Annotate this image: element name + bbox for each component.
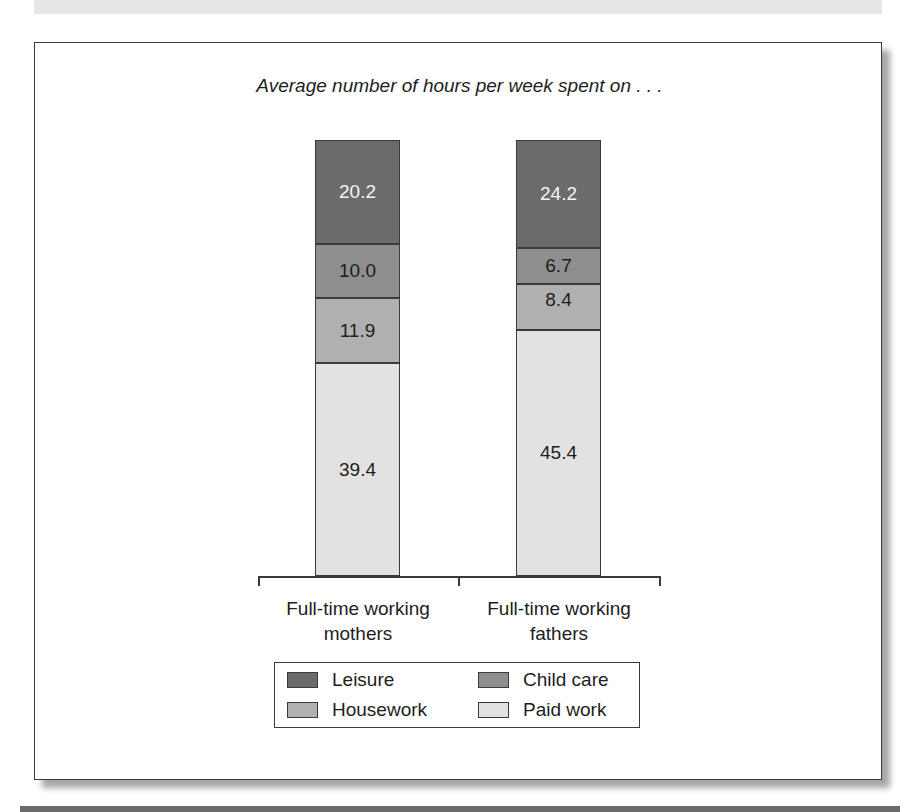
x-label-line: mothers — [258, 621, 458, 646]
segment-child-care: 10.0 — [315, 244, 400, 298]
x-label-line: fathers — [459, 621, 659, 646]
x-label-line: Full-time working — [258, 596, 458, 621]
legend-label: Child care — [523, 669, 609, 691]
segment-paid-work: 39.4 — [315, 363, 400, 576]
value-label: 6.7 — [545, 255, 571, 277]
x-axis-tick — [659, 576, 661, 586]
x-label-mothers: Full-time working mothers — [258, 596, 458, 646]
segment-housework: 11.9 — [315, 298, 400, 363]
legend-swatch-leisure — [287, 672, 318, 688]
legend-item-paid-work: Paid work — [478, 699, 606, 721]
bottom-rule — [20, 806, 900, 812]
legend-label: Housework — [332, 699, 427, 721]
value-label: 20.2 — [339, 181, 376, 203]
legend-item-leisure: Leisure — [287, 669, 394, 691]
value-label: 10.0 — [339, 260, 376, 282]
legend: Leisure Child care Housework Paid work — [274, 662, 640, 728]
legend-swatch-paid-work — [478, 702, 509, 718]
legend-swatch-housework — [287, 702, 318, 718]
x-label-line: Full-time working — [459, 596, 659, 621]
legend-swatch-child-care — [478, 672, 509, 688]
bar-fathers: 24.2 6.7 8.4 45.4 — [516, 140, 601, 576]
segment-leisure: 20.2 — [315, 140, 400, 244]
segment-leisure: 24.2 — [516, 140, 601, 248]
value-label: 24.2 — [540, 183, 577, 205]
value-label: 39.4 — [339, 459, 376, 481]
value-label: 45.4 — [540, 442, 577, 464]
x-label-fathers: Full-time working fathers — [459, 596, 659, 646]
legend-label: Leisure — [332, 669, 394, 691]
bar-mothers: 20.2 10.0 11.9 39.4 — [315, 140, 400, 576]
x-axis-tick — [258, 576, 260, 586]
legend-item-child-care: Child care — [478, 669, 609, 691]
value-label: 8.4 — [545, 289, 571, 311]
legend-item-housework: Housework — [287, 699, 427, 721]
x-axis-tick — [458, 576, 460, 586]
segment-paid-work: 45.4 — [516, 330, 601, 576]
value-label: 11.9 — [340, 320, 376, 342]
top-band — [34, 0, 882, 14]
segment-child-care: 6.7 — [516, 248, 601, 284]
legend-label: Paid work — [523, 699, 606, 721]
chart-title: Average number of hours per week spent o… — [0, 75, 919, 97]
segment-housework: 8.4 — [516, 284, 601, 330]
